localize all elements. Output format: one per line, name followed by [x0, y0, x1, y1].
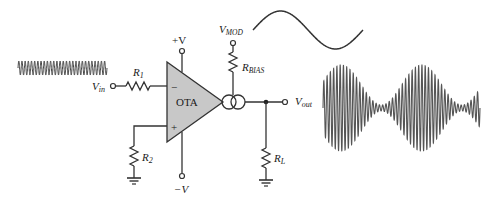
resistor-r2: R2	[130, 126, 167, 178]
rbias-label: RBIAS	[241, 61, 264, 75]
resistor-rbias: RBIAS	[229, 52, 264, 95]
vin-terminal: Vin	[92, 80, 116, 94]
output-node: Vout	[245, 95, 313, 109]
r2-label: R2	[141, 151, 153, 165]
vmod-label: VMOD	[219, 23, 243, 37]
resistor-rl: RL	[262, 102, 286, 180]
vmod-terminal: VMOD	[219, 23, 243, 52]
r1-label: R1	[132, 66, 144, 80]
ground-icon	[259, 180, 273, 186]
plus-v-label: +V	[172, 34, 186, 46]
vin-label: Vin	[92, 80, 105, 94]
minus-v-label: −V	[174, 183, 189, 195]
ota-amplifier: OTA − +	[167, 62, 223, 142]
negative-supply: −V	[174, 132, 189, 195]
ground-icon	[127, 178, 141, 184]
current-source-icon	[222, 95, 245, 109]
noninverting-input-sign: +	[171, 121, 177, 133]
am-output-waveform	[323, 65, 480, 151]
resistor-r1: R1	[116, 66, 167, 90]
modulating-signal-waveform	[253, 11, 363, 49]
ota-label: OTA	[176, 96, 198, 108]
inverting-input-sign: −	[171, 81, 177, 93]
ota-modulator-diagram: Vin R1 +V OTA − + −V R2	[0, 0, 499, 204]
rl-label: RL	[273, 152, 286, 166]
vout-label: Vout	[295, 95, 313, 109]
input-carrier-waveform	[18, 61, 107, 75]
